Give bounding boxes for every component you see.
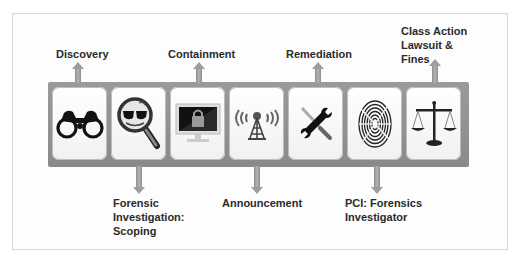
broadcast-tower-icon	[232, 106, 282, 142]
wrench-screwdriver-icon	[296, 104, 336, 144]
label-remediation: Remediation	[286, 47, 352, 61]
locked-monitor-icon	[175, 103, 221, 145]
magnifier-sunglasses-icon	[115, 96, 163, 152]
binoculars-icon	[55, 109, 105, 139]
label-pci-forensics: PCI: Forensics Investigator	[345, 196, 422, 224]
scales-of-justice-icon	[411, 100, 457, 148]
card-forensic-scoping	[111, 87, 166, 160]
arrow-down-pci	[371, 166, 383, 194]
fingerprint-icon	[357, 99, 393, 149]
arrow-down-forensic	[133, 166, 145, 194]
card-pci-forensics	[347, 87, 402, 160]
arrow-up-containment	[193, 62, 205, 83]
card-remediation	[288, 87, 343, 160]
label-forensic-scoping: Forensic Investigation: Scoping	[113, 196, 185, 238]
label-class-action: Class Action Lawsuit & Fines	[401, 24, 467, 66]
card-discovery	[52, 87, 107, 160]
arrow-up-remediation	[312, 62, 324, 83]
label-discovery: Discovery	[56, 47, 109, 61]
label-announcement: Announcement	[222, 196, 302, 210]
label-containment: Containment	[168, 47, 235, 61]
card-announcement	[229, 87, 284, 160]
arrow-up-discovery	[72, 62, 84, 83]
card-containment	[170, 87, 225, 160]
arrow-down-announcement	[251, 166, 263, 194]
card-class-action	[406, 87, 461, 160]
